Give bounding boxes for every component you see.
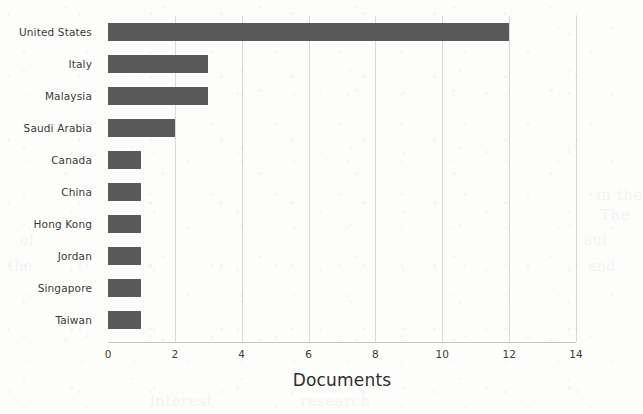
- bar-row: [108, 144, 576, 176]
- x-axis-line: [108, 342, 576, 343]
- x-tick-label-6: 6: [289, 348, 329, 360]
- bar-hong-kong: [108, 215, 141, 233]
- x-tick-label-4: 4: [222, 348, 262, 360]
- x-axis-title: Documents: [108, 370, 576, 390]
- x-tick-label-12: 12: [489, 348, 529, 360]
- bar-canada: [108, 151, 141, 169]
- bar-row: [108, 176, 576, 208]
- category-label-taiwan: Taiwan: [55, 304, 92, 336]
- bar-jordan: [108, 247, 141, 265]
- bar-italy: [108, 55, 208, 73]
- bar-malaysia: [108, 87, 208, 105]
- x-tick-label-2: 2: [155, 348, 195, 360]
- x-tick-label-10: 10: [422, 348, 462, 360]
- category-label-china: China: [61, 176, 92, 208]
- gridline-14: [576, 16, 577, 342]
- bar-row: [108, 48, 576, 80]
- bar-saudi-arabia: [108, 119, 175, 137]
- category-label-canada: Canada: [51, 144, 92, 176]
- category-label-hong-kong: Hong Kong: [34, 208, 92, 240]
- category-label-singapore: Singapore: [38, 272, 92, 304]
- category-label-saudi-arabia: Saudi Arabia: [24, 112, 92, 144]
- category-label-italy: Italy: [68, 48, 92, 80]
- bar-taiwan: [108, 311, 141, 329]
- bar-united-states: [108, 23, 509, 41]
- bar-row: [108, 240, 576, 272]
- bar-row: [108, 112, 576, 144]
- category-label-jordan: Jordan: [58, 240, 92, 272]
- bar-row: [108, 208, 576, 240]
- bar-china: [108, 183, 141, 201]
- bar-row: [108, 16, 576, 48]
- bar-row: [108, 272, 576, 304]
- category-label-united-states: United States: [19, 16, 92, 48]
- x-tick-label-8: 8: [355, 348, 395, 360]
- bar-row: [108, 304, 576, 336]
- bar-singapore: [108, 279, 141, 297]
- plot-area: [108, 16, 576, 342]
- x-tick-label-14: 14: [556, 348, 596, 360]
- x-tick-label-0: 0: [88, 348, 128, 360]
- category-label-malaysia: Malaysia: [45, 80, 92, 112]
- bar-row: [108, 80, 576, 112]
